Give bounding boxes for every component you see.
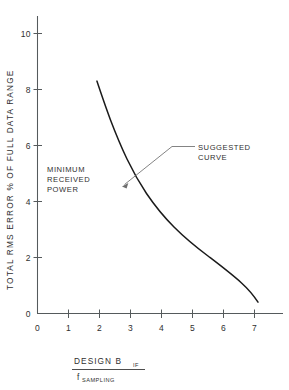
annotation-suggested-curve: SUGGESTED CURVE: [122, 143, 251, 189]
x-axis-denominator: f: [77, 372, 80, 382]
y-tick-label-10: 10: [21, 29, 31, 39]
x-axis-title: DESIGN B IF f SAMPLING: [72, 356, 145, 383]
x-axis-numerator: DESIGN B: [74, 356, 122, 366]
chart-figure: 10 8 6 4 2 0 0 1 2 3 4 5 6 7 TO: [0, 0, 289, 390]
y-axis-title: TOTAL RMS ERROR % OF FULL DATA RANGE: [5, 70, 15, 290]
y-tick-label-0: 0: [26, 309, 31, 319]
suggested-curve-leader-line: [125, 147, 196, 185]
chart-canvas: 10 8 6 4 2 0 0 1 2 3 4 5 6 7 TO: [0, 0, 289, 390]
minimum-received-power-line-2: RECEIVED: [47, 175, 90, 184]
annotation-minimum-received-power: MINIMUM RECEIVED POWER: [47, 165, 90, 194]
y-tick-label-2: 2: [26, 253, 31, 263]
x-tick-labels: 0 1 2 3 4 5 6 7: [35, 323, 257, 333]
minimum-received-power-line-3: POWER: [47, 185, 78, 194]
y-tick-label-4: 4: [26, 197, 31, 207]
x-tick-label-1: 1: [66, 323, 71, 333]
minimum-received-power-line-1: MINIMUM: [47, 165, 85, 174]
x-tick-label-6: 6: [221, 323, 226, 333]
x-tick-label-2: 2: [97, 323, 102, 333]
x-tick-label-5: 5: [190, 323, 195, 333]
y-tick-labels: 10 8 6 4 2 0: [21, 29, 31, 319]
x-axis-numerator-subscript: IF: [133, 362, 139, 368]
suggested-curve-line: [97, 81, 258, 302]
y-tick-label-8: 8: [26, 85, 31, 95]
x-tick-label-4: 4: [159, 323, 164, 333]
suggested-curve-label-line-1: SUGGESTED: [198, 143, 251, 152]
x-axis-denominator-subscript: SAMPLING: [82, 377, 115, 383]
y-tick-label-6: 6: [26, 141, 31, 151]
x-tick-label-7: 7: [252, 323, 257, 333]
x-tick-label-0: 0: [35, 323, 40, 333]
suggested-curve-label-line-2: CURVE: [198, 153, 227, 162]
x-tick-label-3: 3: [128, 323, 133, 333]
